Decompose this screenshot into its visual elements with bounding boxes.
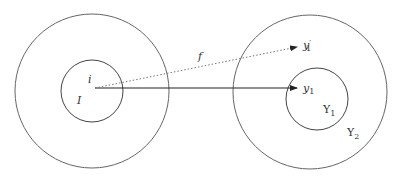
mapping-arrows: f	[95, 47, 297, 88]
domain-set: i I	[15, 14, 169, 168]
dotted-arrow-i-to-y1-prime	[95, 47, 297, 88]
mapping-label-f: f	[197, 50, 204, 63]
domain-outer-circle	[15, 14, 169, 168]
point-label-i: i	[88, 73, 92, 86]
set-label-I: I	[76, 94, 82, 107]
set-label-Y2: Y2	[346, 126, 359, 141]
set-mapping-diagram: i I y1 y′1 Y1 Y2 f	[0, 0, 399, 183]
point-label-y1-prime: y′1	[302, 38, 311, 53]
codomain-inner-circle-Y1	[286, 68, 348, 130]
domain-inner-circle-I	[61, 60, 123, 122]
point-label-y1: y1	[302, 82, 314, 96]
codomain-set: y1 y′1 Y1 Y2	[233, 15, 387, 169]
set-label-Y1: Y1	[322, 103, 335, 118]
